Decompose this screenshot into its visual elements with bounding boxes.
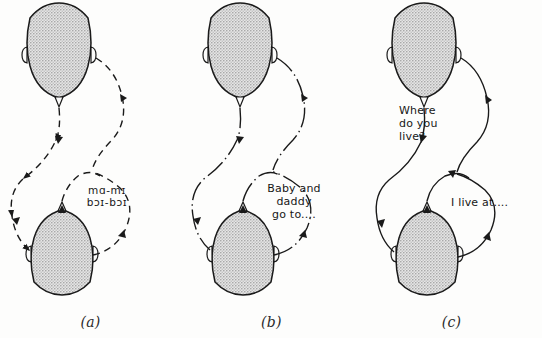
arrow-lower-to-upper-tail — [457, 58, 489, 172]
arrow-lower-to-upper-tail — [273, 58, 305, 170]
upper-head — [387, 3, 461, 107]
panel-b-caption: (b) — [181, 314, 362, 330]
panel-a: mɑ-mɪ bɔɪ-bɔɪ (a) — [0, 0, 181, 338]
upper-head — [203, 3, 277, 107]
lower-head — [26, 202, 98, 295]
figure-container: mɑ-mɪ bɔɪ-bɔɪ (a) — [0, 0, 542, 338]
arrow-lower-to-upper — [457, 174, 495, 257]
panel-c-caption: (c) — [361, 314, 542, 330]
speech-answer-utterance: I live at.... — [451, 196, 531, 209]
arrowhead-down-left — [55, 136, 63, 144]
panel-c-diagram — [361, 0, 542, 305]
panel-c: Where do you live? I live at.... (c) — [361, 0, 542, 338]
lower-head — [391, 202, 463, 295]
upper-head — [22, 3, 96, 107]
panel-b-diagram — [181, 0, 362, 305]
speech-child-utterance: Baby and daddy go to.... — [253, 182, 335, 221]
panel-a-diagram — [0, 0, 181, 305]
speech-question-utterance: Where do you live? — [399, 104, 459, 143]
panel-b: Baby and daddy go to.... (b) — [181, 0, 362, 338]
speech-phonetic-babble: mɑ-mɪ bɔɪ-bɔɪ — [74, 184, 140, 208]
arrow-lower-to-upper-tail — [92, 58, 124, 170]
panel-a-caption: (a) — [0, 314, 181, 330]
arrowhead-up-right — [301, 94, 308, 102]
